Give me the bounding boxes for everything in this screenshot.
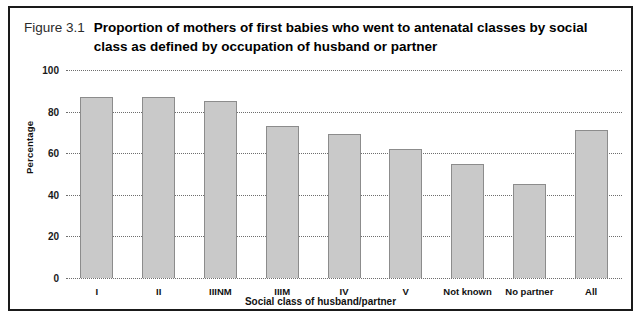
y-tick-label: 100 <box>42 65 59 76</box>
plot-area: 020406080100 IIIIIINMIIIMIVVNot knownNo … <box>66 70 622 278</box>
y-tick-label: 20 <box>48 231 59 242</box>
bar-no-partner <box>513 184 546 278</box>
bar-iv <box>328 134 361 278</box>
bar-series <box>66 70 622 278</box>
y-tick-label: 0 <box>53 273 59 284</box>
figure-frame: Figure 3.1 Proportion of mothers of firs… <box>8 6 633 311</box>
x-axis-label: Social class of husband/partner <box>10 296 631 307</box>
bar-not-known <box>451 164 484 278</box>
gridline-0 <box>66 278 622 279</box>
y-tick-label: 80 <box>48 106 59 117</box>
bar-i <box>80 97 113 278</box>
bar-v <box>389 149 422 278</box>
bar-iiinm <box>204 101 237 278</box>
bar-iiim <box>266 126 299 278</box>
chart-canvas: Percentage 020406080100 IIIIIINMIIIMIVVN… <box>10 8 631 309</box>
bar-all <box>575 130 608 278</box>
y-tick-label: 40 <box>48 189 59 200</box>
y-tick-label: 60 <box>48 148 59 159</box>
bar-ii <box>142 97 175 278</box>
y-axis-label: Percentage <box>24 121 35 174</box>
